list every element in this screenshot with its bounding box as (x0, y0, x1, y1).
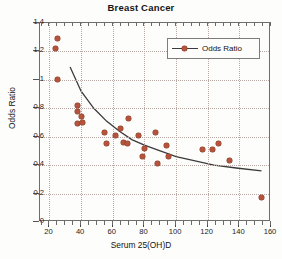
x-axis-top-minor-tick (223, 22, 224, 26)
x-axis-minor-tick (167, 221, 168, 225)
chart-canvas: Breast Cancer Serum 25(OH)D Odds Ratio O… (0, 0, 282, 259)
x-axis-top-minor-tick (254, 22, 255, 26)
x-axis-minor-tick (80, 221, 81, 225)
data-point (125, 141, 130, 146)
gridline-horizontal (40, 80, 269, 81)
gridline-vertical (144, 23, 145, 220)
x-axis-minor-tick (104, 221, 105, 225)
x-axis-tick-label: 80 (129, 227, 157, 236)
x-axis-minor-tick (191, 221, 192, 225)
x-axis-top-minor-tick (159, 22, 160, 26)
legend-label: Odds Ratio (202, 44, 242, 53)
x-axis-tick-label: 60 (98, 227, 126, 236)
x-axis-minor-tick (72, 221, 73, 225)
y-axis-tick-label: 1 (14, 74, 44, 83)
data-point (210, 147, 215, 152)
gridline-vertical (113, 23, 114, 220)
x-axis-top-minor-tick (128, 22, 129, 26)
x-axis-top-minor-tick (136, 22, 137, 26)
x-axis-minor-tick (175, 221, 176, 225)
x-axis-top-minor-tick (56, 22, 57, 26)
x-axis-minor-tick (136, 221, 137, 225)
x-axis-tick-label: 160 (256, 227, 282, 236)
data-point (142, 146, 147, 151)
x-axis-label: Serum 25(OH)D (0, 240, 282, 250)
gridline-horizontal (40, 165, 269, 166)
x-axis-top-minor-tick (215, 22, 216, 26)
data-point (79, 114, 84, 119)
x-axis-minor-tick (120, 221, 121, 225)
x-axis-top-minor-tick (120, 22, 121, 26)
y-axis-tick-label: 0.4 (14, 159, 44, 168)
x-axis-top-minor-tick (143, 22, 144, 26)
x-axis-minor-tick (64, 221, 65, 225)
x-axis-tick-label: 140 (224, 227, 252, 236)
x-axis-tick-label: 40 (66, 227, 94, 236)
data-point (153, 130, 158, 135)
x-axis-tick-label: 100 (161, 227, 189, 236)
x-axis-top-minor-tick (151, 22, 152, 26)
gridline-horizontal (40, 137, 269, 138)
x-axis-top-minor-tick (199, 22, 200, 26)
x-axis-minor-tick (88, 221, 89, 225)
x-axis-minor-tick (128, 221, 129, 225)
x-axis-top-minor-tick (80, 22, 81, 26)
legend: Odds Ratio (167, 38, 260, 59)
gridline-horizontal (40, 108, 269, 109)
x-axis-top-minor-tick (64, 22, 65, 26)
x-axis-top-minor-tick (112, 22, 113, 26)
data-point (126, 116, 131, 121)
x-axis-top-minor-tick (238, 22, 239, 26)
data-point (166, 154, 171, 159)
x-axis-minor-tick (183, 221, 184, 225)
x-axis-top-minor-tick (41, 22, 42, 26)
x-axis-minor-tick (151, 221, 152, 225)
x-axis-top-minor-tick (230, 22, 231, 26)
x-axis-top-minor-tick (246, 22, 247, 26)
x-axis-top-minor-tick (207, 22, 208, 26)
x-axis-minor-tick (112, 221, 113, 225)
x-axis-top-minor-tick (167, 22, 168, 26)
y-axis-tick-label: 1.2 (14, 45, 44, 54)
x-axis-top-minor-tick (72, 22, 73, 26)
x-axis-top-minor-tick (175, 22, 176, 26)
x-axis-top-minor-tick (262, 22, 263, 26)
x-axis-top-minor-tick (270, 22, 271, 26)
x-axis-minor-tick (199, 221, 200, 225)
data-point (164, 143, 169, 148)
x-axis-tick-label: 120 (193, 227, 221, 236)
y-axis-tick-label: 0.8 (14, 102, 44, 111)
x-axis-minor-tick (246, 221, 247, 225)
gridline-horizontal (40, 194, 269, 195)
gridline-vertical (49, 23, 50, 220)
x-axis-minor-tick (207, 221, 208, 225)
y-axis-tick-label: 0.2 (14, 188, 44, 197)
x-axis-minor-tick (143, 221, 144, 225)
x-axis-top-minor-tick (96, 22, 97, 26)
x-axis-top-minor-tick (104, 22, 105, 26)
data-point (118, 126, 123, 131)
y-axis-tick-label: 0.6 (14, 131, 44, 140)
x-axis-minor-tick (56, 221, 57, 225)
x-axis-minor-tick (215, 221, 216, 225)
x-axis-tick-label: 20 (34, 227, 62, 236)
x-axis-top-minor-tick (48, 22, 49, 26)
chart-title: Breast Cancer (0, 2, 282, 13)
x-axis-top-minor-tick (183, 22, 184, 26)
x-axis-minor-tick (48, 221, 49, 225)
data-point (55, 36, 60, 41)
x-axis-minor-tick (41, 221, 42, 225)
x-axis-minor-tick (238, 221, 239, 225)
y-axis-tick-label: 0 (14, 216, 44, 225)
legend-marker-icon (172, 45, 198, 53)
x-axis-top-minor-tick (88, 22, 89, 26)
x-axis-minor-tick (254, 221, 255, 225)
x-axis-minor-tick (223, 221, 224, 225)
data-point (136, 133, 141, 138)
x-axis-minor-tick (96, 221, 97, 225)
y-axis-tick-label: 1.4 (14, 17, 44, 26)
x-axis-minor-tick (270, 221, 271, 225)
x-axis-minor-tick (230, 221, 231, 225)
x-axis-minor-tick (262, 221, 263, 225)
data-point (155, 161, 160, 166)
